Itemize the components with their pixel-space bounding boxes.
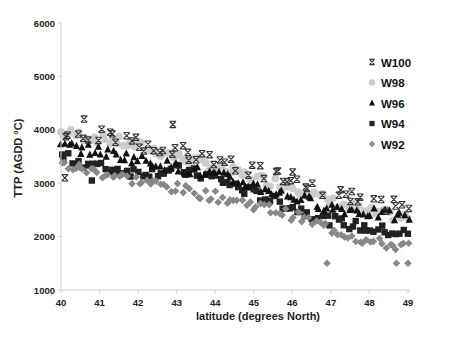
x-tick-label: 49 bbox=[403, 297, 414, 308]
y-tick-label: 3000 bbox=[34, 178, 55, 189]
y-tick-label: 6000 bbox=[34, 18, 55, 29]
x-tick-label: 43 bbox=[171, 297, 182, 308]
legend-label: W98 bbox=[381, 77, 405, 89]
data-points bbox=[57, 116, 413, 267]
scatter-chart: 100020003000400050006000 404142434445464… bbox=[0, 0, 458, 340]
legend: W100W98W96W94W92 bbox=[369, 57, 411, 151]
y-tick-label: 2000 bbox=[34, 231, 55, 242]
y-tick-label: 5000 bbox=[34, 71, 55, 82]
x-axis-title: latitude (degrees North) bbox=[196, 310, 320, 322]
legend-item-w92: W92 bbox=[369, 139, 405, 151]
legend-label: W94 bbox=[381, 118, 405, 130]
x-tick-label: 46 bbox=[287, 297, 298, 308]
legend-item-w98: W98 bbox=[369, 77, 405, 89]
legend-item-w96: W96 bbox=[369, 98, 405, 110]
x-tick-label: 44 bbox=[210, 297, 221, 308]
legend-label: W92 bbox=[381, 139, 405, 151]
x-tick-label: 42 bbox=[133, 297, 144, 308]
x-tick-label: 41 bbox=[94, 297, 105, 308]
x-axis-ticks: 40414243444546474849 bbox=[56, 290, 414, 308]
legend-item-w100: W100 bbox=[369, 57, 411, 69]
x-tick-label: 45 bbox=[248, 297, 259, 308]
y-axis-title: TTP (AGDD °C) bbox=[12, 118, 24, 197]
x-tick-label: 47 bbox=[326, 297, 337, 308]
legend-label: W100 bbox=[381, 57, 411, 69]
y-tick-label: 4000 bbox=[34, 124, 55, 135]
x-tick-label: 48 bbox=[364, 297, 375, 308]
y-axis-ticks: 100020003000400050006000 bbox=[34, 18, 61, 296]
legend-label: W96 bbox=[381, 98, 405, 110]
x-tick-label: 40 bbox=[56, 297, 67, 308]
legend-item-w94: W94 bbox=[369, 118, 405, 130]
y-tick-label: 1000 bbox=[34, 285, 55, 296]
